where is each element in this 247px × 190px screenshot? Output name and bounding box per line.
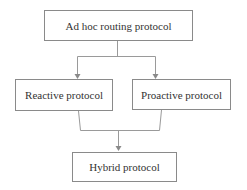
node-label: Reactive protocol bbox=[25, 89, 103, 101]
node-reactive-protocol: Reactive protocol bbox=[15, 79, 113, 111]
node-ad-hoc-routing-protocol: Ad hoc routing protocol bbox=[44, 10, 193, 41]
node-label: Ad hoc routing protocol bbox=[65, 20, 171, 32]
node-proactive-protocol: Proactive protocol bbox=[132, 79, 231, 110]
arrowhead-hybrid bbox=[116, 146, 122, 151]
node-hybrid-protocol: Hybrid protocol bbox=[72, 152, 177, 182]
node-label: Proactive protocol bbox=[141, 89, 222, 101]
node-label: Hybrid protocol bbox=[89, 161, 160, 173]
connector-from-reactive bbox=[79, 111, 81, 131]
connector-from-proactive bbox=[160, 110, 162, 131]
